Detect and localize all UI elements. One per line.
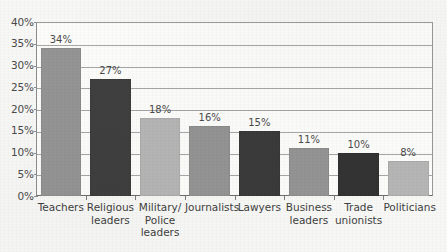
bar	[189, 126, 230, 196]
bar-value-label: 16%	[185, 113, 235, 123]
y-axis-tick-label: 5%	[0, 169, 34, 179]
bar-value-label: 15%	[235, 118, 285, 128]
y-axis-tick-label: 25%	[0, 82, 34, 92]
x-axis-tick-mark	[334, 196, 335, 200]
bar	[388, 161, 429, 196]
bar-value-label: 10%	[334, 140, 384, 150]
x-axis-category-label: Teachers	[36, 201, 86, 214]
x-axis-category-label: Business leaders	[284, 201, 334, 226]
bar-group: 11%	[284, 22, 334, 196]
bar	[140, 118, 181, 196]
bar-group: 8%	[383, 22, 433, 196]
x-axis-category-label: Religious leaders	[86, 201, 136, 226]
bar-group: 15%	[235, 22, 285, 196]
bar-chart: 40%35%30%25%20%15%10%5%0% 34%27%18%16%15…	[0, 0, 447, 252]
y-axis: 40%35%30%25%20%15%10%5%0%	[0, 0, 34, 252]
y-axis-tick-label: 20%	[0, 104, 34, 114]
x-axis-tick-mark	[86, 196, 87, 200]
bar	[289, 148, 330, 196]
bar-group: 34%	[36, 22, 86, 196]
x-axis-category-labels: TeachersReligious leadersMilitary/ Polic…	[36, 201, 433, 252]
bar-group: 16%	[185, 22, 235, 196]
y-axis-tick-label: 10%	[0, 147, 34, 157]
x-axis-tick-mark	[185, 196, 186, 200]
bar-value-label: 34%	[36, 35, 86, 45]
bar-value-label: 8%	[383, 148, 433, 158]
x-axis-category-label: Trade unionists	[334, 201, 384, 226]
bar-value-label: 27%	[86, 66, 136, 76]
bar	[239, 131, 280, 196]
bars-container: 34%27%18%16%15%11%10%8%	[36, 22, 433, 196]
x-axis-category-label: Military/ Police leaders	[135, 201, 185, 239]
y-axis-tick-label: 30%	[0, 60, 34, 70]
x-axis-tick-mark	[235, 196, 236, 200]
x-axis-tick-mark	[284, 196, 285, 200]
bar	[90, 79, 131, 196]
y-axis-tick-label: 0%	[0, 191, 34, 201]
y-axis-tick-label: 40%	[0, 17, 34, 27]
x-axis-category-label: Politicians	[383, 201, 433, 214]
y-axis-tick-label: 35%	[0, 38, 34, 48]
x-axis-tick-mark	[383, 196, 384, 200]
x-axis-tick-mark	[135, 196, 136, 200]
bar-group: 10%	[334, 22, 384, 196]
bar	[41, 48, 82, 196]
bar-group: 27%	[86, 22, 136, 196]
bar-group: 18%	[135, 22, 185, 196]
x-axis-category-label: Journalists	[185, 201, 235, 214]
x-axis-category-label: Lawyers	[235, 201, 285, 214]
bar	[338, 153, 379, 197]
bar-value-label: 11%	[284, 135, 334, 145]
bar-value-label: 18%	[135, 105, 185, 115]
y-axis-tick-label: 15%	[0, 125, 34, 135]
